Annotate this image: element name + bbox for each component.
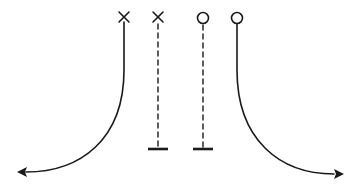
route-curve-left: [26, 22, 124, 172]
x-marker-icon: [153, 12, 163, 22]
x-marker-icon: [119, 12, 129, 22]
player-o-right: [232, 13, 345, 180]
play-diagram: [0, 0, 359, 194]
arrowhead-right-icon: [334, 169, 344, 179]
player-x-left: [17, 12, 129, 177]
player-x-middle: [148, 12, 168, 149]
route-curve-right: [237, 24, 334, 174]
o-marker-icon: [232, 13, 243, 24]
o-marker-icon: [198, 13, 209, 24]
player-o-middle: [193, 13, 213, 150]
